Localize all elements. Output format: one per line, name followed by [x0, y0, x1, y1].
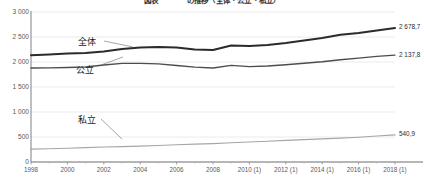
- annotation-leader-line: [101, 119, 122, 139]
- x-axis-tick-label: 1998: [24, 167, 38, 173]
- x-axis-tick-label: 2010 (1): [238, 167, 261, 173]
- x-axis-tick-label: 2018 (1): [383, 167, 406, 173]
- x-axis-tick-label: 2000: [60, 167, 74, 173]
- x-axis-tick-label: 2006: [170, 167, 184, 173]
- series-annotation-label: 私立: [78, 116, 96, 125]
- series-value-label: 2 678,7: [399, 24, 420, 30]
- x-axis-tick-label: 2016 (1): [347, 167, 370, 173]
- x-axis-tick-label: 2004: [133, 167, 147, 173]
- series-value-label: 2 137,8: [399, 52, 420, 58]
- plot-area: [0, 0, 424, 177]
- annotation-leader-line: [104, 41, 133, 47]
- x-axis-tick-label: 2012 (1): [274, 167, 297, 173]
- x-axis-tick-label: 2008: [206, 167, 220, 173]
- line-chart: 図表 の推移（全体・公立・私立） 05001 0001 5002 0002 50…: [0, 0, 424, 177]
- series-annotation-label: 全体: [78, 38, 96, 47]
- series-annotation-label: 公立: [76, 66, 94, 75]
- x-axis-tick-label: 2002: [97, 167, 111, 173]
- x-axis-tick-label: 2014 (1): [310, 167, 333, 173]
- series-value-label: 540,9: [399, 131, 415, 137]
